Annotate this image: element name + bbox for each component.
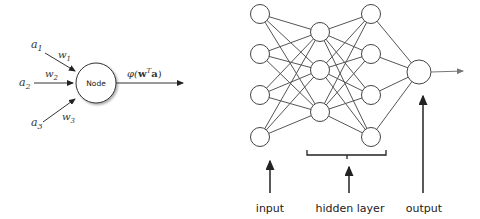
input-node [251, 128, 270, 147]
output-node [407, 60, 431, 84]
input-node [251, 45, 270, 64]
hidden-2-node [362, 128, 381, 147]
hidden-1-node [311, 61, 330, 80]
input-label-a3: a3 [31, 116, 43, 131]
network-diagram [251, 5, 464, 147]
weight-label-w1: w1 [58, 49, 71, 63]
input-node [251, 5, 270, 24]
hidden-1-node [311, 23, 330, 42]
input-label-a2: a2 [19, 76, 31, 91]
weight-label-w3: w3 [62, 111, 76, 125]
hidden-2-node [362, 45, 381, 64]
perceptron-diagram: a1 a2 a3 w1 w2 w3 Node φ(wTa) [19, 38, 183, 131]
hidden-layer-bracket [307, 150, 386, 159]
activation-label: φ(wTa) [127, 67, 162, 79]
hidden-2-node [362, 86, 381, 105]
perceptron-node-label: Node [86, 79, 106, 88]
network-output-arrow [431, 71, 463, 72]
input-layer-label: input [256, 202, 285, 215]
hidden-2-node [362, 5, 381, 24]
hidden-layer-label: hidden layer [316, 202, 385, 215]
diagram-canvas: a1 a2 a3 w1 w2 w3 Node φ(wTa) input hidd… [0, 0, 480, 219]
connection-line [260, 32, 320, 137]
weight-label-w2: w2 [45, 68, 59, 82]
input-node [251, 86, 270, 105]
input-label-a1: a1 [31, 38, 43, 53]
output-layer-label: output [406, 202, 443, 215]
hidden-1-node [311, 103, 330, 122]
